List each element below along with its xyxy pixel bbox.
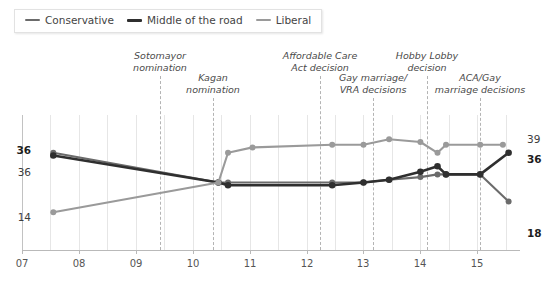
chart-canvas: Conservative Middle of the road Liberal …	[0, 0, 547, 294]
series-line	[53, 153, 508, 202]
data-point	[477, 142, 483, 148]
value-label-left-middle: 36	[18, 167, 31, 178]
data-point	[329, 182, 336, 189]
data-point	[434, 163, 441, 170]
data-point	[417, 174, 423, 180]
data-point	[443, 142, 449, 148]
data-point	[225, 182, 232, 189]
data-point	[435, 150, 441, 156]
series-conservative	[50, 150, 511, 205]
value-label-left-liberal: 14	[18, 212, 31, 223]
data-point	[417, 139, 423, 145]
value-label-right-middle: 36	[527, 154, 542, 165]
data-point	[329, 142, 335, 148]
value-label-right-liberal: 39	[527, 134, 540, 145]
data-point	[435, 171, 441, 177]
series-line	[53, 153, 508, 185]
data-point	[417, 168, 424, 175]
data-point	[500, 142, 506, 148]
data-point	[361, 142, 367, 148]
data-point	[443, 171, 450, 178]
data-point	[50, 209, 56, 215]
data-point	[506, 198, 512, 204]
data-point	[215, 180, 221, 186]
data-point	[505, 150, 512, 157]
value-label-right-conservative: 18	[527, 228, 542, 239]
data-point	[477, 171, 484, 178]
data-point	[225, 150, 231, 156]
data-point	[386, 177, 393, 184]
data-point	[250, 144, 256, 150]
data-point	[360, 179, 367, 186]
value-label-left-conservative: 36	[16, 145, 31, 156]
data-point	[50, 152, 57, 159]
data-point	[386, 136, 392, 142]
series-layer	[0, 0, 547, 294]
